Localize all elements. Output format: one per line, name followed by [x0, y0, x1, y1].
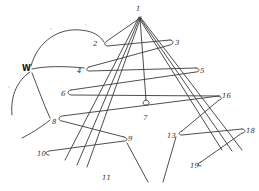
- stray-dot: [85, 24, 86, 25]
- label-18: 18: [246, 127, 255, 135]
- label-4: 4: [76, 67, 81, 75]
- line-to-7: [140, 18, 149, 105]
- diag-right-3: [141, 18, 242, 150]
- label-10: 10: [37, 150, 46, 158]
- arc-8-lower-left: [22, 120, 50, 138]
- label-w: W: [22, 64, 31, 73]
- label-13: 13: [167, 132, 176, 140]
- label-8: 8: [52, 118, 57, 126]
- line-9-to-11: [127, 143, 148, 182]
- label-2: 2: [92, 40, 98, 48]
- loop-9: [46, 137, 127, 155]
- label-9: 9: [128, 135, 133, 143]
- loop-16: [182, 96, 221, 131]
- diag-right-1: [139, 18, 222, 150]
- hand-drawn-diagram: 1 2 3 W 4 5 6 7 16 8 9 13 18 10 19 11: [0, 0, 259, 191]
- label-6: 6: [61, 90, 66, 98]
- diag-right-2: [140, 18, 232, 151]
- label-7: 7: [143, 114, 148, 122]
- label-1: 1: [136, 5, 140, 13]
- stray-dot: [50, 28, 51, 29]
- label-5: 5: [200, 67, 205, 75]
- line-13-to-11: [163, 137, 176, 182]
- label-3: 3: [175, 39, 180, 47]
- label-11: 11: [102, 174, 111, 182]
- label-16: 16: [222, 92, 231, 100]
- loop-6-to-8: [59, 96, 219, 137]
- arc-w-to-8: [32, 73, 50, 118]
- stray-dot: [8, 86, 9, 87]
- arc-w-left: [12, 72, 30, 115]
- label-19: 19: [190, 162, 199, 170]
